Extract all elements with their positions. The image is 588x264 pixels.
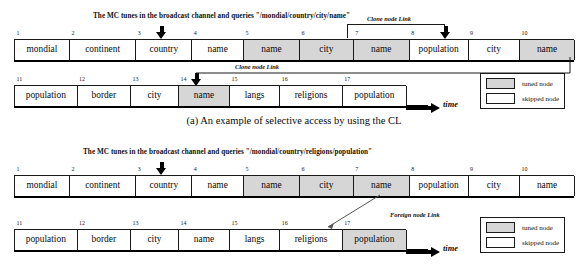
timeline-cell[interactable]: 16religions <box>279 230 343 250</box>
figure-a-tune-marker-row1-a <box>156 26 167 39</box>
timeline-cell[interactable]: 17population <box>342 230 407 250</box>
timeline-cell[interactable]: 4name <box>191 176 244 196</box>
figure-a-clone-link-label-2: Clone node Link <box>235 63 279 70</box>
figure-a-row2-cells: 11population12border13city14name15langs1… <box>14 85 406 105</box>
legend-swatch-tuned <box>486 78 515 89</box>
timeline-cell-label: name <box>537 181 557 190</box>
timeline-cell-label: name <box>261 181 281 190</box>
timeline-cell[interactable]: 15langs <box>229 86 280 106</box>
timeline-cell-label: population <box>419 45 459 54</box>
timeline-cell-index: 3 <box>138 166 141 172</box>
timeline-cell[interactable]: 12border <box>77 230 131 250</box>
timeline-cell-label: name <box>371 181 391 190</box>
timeline-cell-label: name <box>208 181 228 190</box>
legend-swatch-tuned <box>486 222 515 233</box>
legend-label-tuned: tuned node <box>522 80 553 88</box>
timeline-cell-index: 7 <box>355 166 358 172</box>
figure-a-legend: tuned node skipped node <box>480 73 565 109</box>
timeline-cell-label: country <box>150 181 179 190</box>
timeline-cell-label: name <box>261 45 281 54</box>
timeline-cell-label: city <box>147 91 161 100</box>
legend-row-tuned: tuned node <box>486 78 559 89</box>
timeline-cell[interactable]: 16religions <box>279 86 343 106</box>
timeline-cell[interactable]: 13city <box>130 86 179 106</box>
legend-label-skipped: skipped node <box>522 239 559 247</box>
figure-b-foreign-link-label: Foreign node Link <box>390 211 440 218</box>
bracket-top <box>347 24 445 25</box>
timeline-cell[interactable]: 15langs <box>229 230 280 250</box>
arrow-shaft <box>406 106 432 109</box>
timeline-cell-index: 2 <box>71 30 74 36</box>
timeline-cell-label: population <box>354 235 394 244</box>
timeline-cell[interactable]: 8population <box>409 176 469 196</box>
timeline-cell[interactable]: 10name <box>519 176 575 196</box>
timeline-cell-index: 7 <box>355 30 358 36</box>
figure-b-time-label: time <box>443 244 458 253</box>
timeline-cell-index: 9 <box>470 30 473 36</box>
timeline-cell[interactable]: 13city <box>130 230 179 250</box>
legend-label-tuned: tuned node <box>522 224 553 232</box>
timeline-cell-index: 4 <box>194 30 197 36</box>
timeline-cell-label: name <box>371 45 391 54</box>
timeline-cell-index: 1 <box>17 30 20 36</box>
timeline-cell-label: langs <box>245 235 265 244</box>
timeline-cell[interactable]: 7name <box>353 176 410 196</box>
bracket-left-leg <box>347 24 348 38</box>
arrow-tip-icon <box>156 32 166 39</box>
timeline-cell-index: 14 <box>180 220 186 226</box>
timeline-cell[interactable]: 1mondial <box>14 176 70 196</box>
timeline-cell-index: 17 <box>344 76 350 82</box>
timeline-cell-label: name <box>537 45 557 54</box>
timeline-cell-label: border <box>92 91 116 100</box>
timeline-cell[interactable]: 14name <box>178 230 230 250</box>
timeline-cell-label: religions <box>295 91 328 100</box>
timeline-cell[interactable]: 5name <box>243 176 300 196</box>
timeline-cell-index: 1 <box>17 166 20 172</box>
timeline-cell-label: city <box>147 235 161 244</box>
figure-b-tune-marker-row1 <box>156 162 167 175</box>
figure-a-time-axis-arrow <box>406 103 440 113</box>
timeline-cell[interactable]: 14name <box>178 86 230 106</box>
timeline-cell-index: 14 <box>180 76 186 82</box>
timeline-cell[interactable]: 12border <box>77 86 131 106</box>
timeline-cell[interactable]: 9city <box>468 176 521 196</box>
timeline-cell-index: 5 <box>245 166 248 172</box>
timeline-cell-label: continent <box>85 45 120 54</box>
timeline-cell-index: 16 <box>282 76 288 82</box>
timeline-cell-index: 13 <box>132 220 138 226</box>
timeline-cell-index: 15 <box>231 76 237 82</box>
timeline-cell[interactable]: 2continent <box>69 176 136 196</box>
timeline-cell-index: 6 <box>301 30 304 36</box>
timeline-cell-label: city <box>487 45 501 54</box>
arrow-shaft <box>406 250 432 253</box>
figure-a-time-label: time <box>443 100 458 109</box>
timeline-cell-label: langs <box>245 91 265 100</box>
timeline-cell[interactable]: 6city <box>299 176 354 196</box>
timeline-cell[interactable]: 3country <box>135 176 192 196</box>
timeline-cell-index: 17 <box>344 220 350 226</box>
timeline-cell[interactable]: 17population <box>342 86 407 106</box>
timeline-cell[interactable]: 11population <box>14 230 78 250</box>
timeline-cell-index: 12 <box>79 76 85 82</box>
timeline-cell-index: 10 <box>522 166 528 172</box>
arrow-tip-icon <box>156 168 166 175</box>
legend-row-skipped: skipped node <box>486 237 559 248</box>
timeline-cell-index: 8 <box>411 30 414 36</box>
legend-swatch-skipped <box>486 93 515 104</box>
figure-a-clone-link-label-1: Clone node Link <box>367 15 411 22</box>
timeline-cell-index: 2 <box>71 166 74 172</box>
legend-row-skipped: skipped node <box>486 93 559 104</box>
timeline-cell-index: 11 <box>17 220 23 226</box>
timeline-cell-index: 3 <box>138 30 141 36</box>
legend-row-tuned: tuned node <box>486 222 559 233</box>
timeline-cell-label: city <box>319 45 333 54</box>
timeline-cell-label: name <box>194 235 214 244</box>
figure-a-row2: 11population12border13city14name15langs1… <box>14 85 406 107</box>
caption-a: (a) An example of selective access by us… <box>0 115 588 126</box>
figure-b-row1-cells: 1mondial2continent3country4name5name6cit… <box>14 175 574 195</box>
timeline-cell[interactable]: 11population <box>14 86 78 106</box>
timeline-cell-index: 5 <box>245 30 248 36</box>
timeline-cell-index: 9 <box>470 166 473 172</box>
arrow-head-icon <box>431 247 440 257</box>
figure-a-query-title: The MC tunes in the broadcast channel an… <box>93 12 350 20</box>
